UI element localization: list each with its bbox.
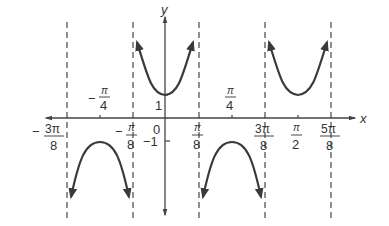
tick-pi-4: π 4 [225, 85, 236, 113]
svg-text:8: 8 [260, 138, 267, 153]
tick-pi-8: π 8 [192, 122, 203, 152]
svg-text:−: − [88, 91, 96, 106]
svg-text:8: 8 [193, 137, 200, 152]
svg-text:8: 8 [50, 138, 57, 153]
branch-down-center-pi-4 [203, 142, 261, 197]
svg-text:−: − [32, 124, 40, 139]
tick-5pi-8: 5π 8 [320, 122, 340, 153]
svg-text:2: 2 [292, 137, 299, 152]
tick-pi-2: π 2 [291, 122, 302, 152]
y-tick-label-1: 1 [155, 98, 162, 113]
svg-text:π: π [227, 85, 234, 96]
tick-neg-3pi-8: − 3π 8 [32, 122, 64, 153]
tick-neg-pi-4: − π 4 [88, 85, 110, 113]
svg-text:8: 8 [127, 137, 134, 152]
svg-text:π: π [293, 122, 300, 133]
x-axis-label: x [359, 111, 367, 126]
y-axis-label: y [160, 2, 169, 17]
y-tick-label-neg1: −1 [143, 134, 158, 149]
svg-text:−: − [115, 124, 123, 139]
axes [46, 17, 355, 215]
asymptotes [67, 22, 331, 218]
tick-3pi-8: 3π 8 [254, 122, 274, 153]
branch-up-center-pi-2 [269, 42, 327, 95]
svg-text:π: π [128, 122, 135, 133]
branch-down-center-neg-pi-4 [71, 142, 129, 197]
svg-text:5π: 5π [321, 122, 336, 136]
svg-text:3π: 3π [45, 122, 60, 136]
svg-text:3π: 3π [255, 122, 270, 136]
secant-graph: y x 1 0 −1 − π 4 π 4 − 3π 8 − π 8 π 8 3π… [0, 0, 389, 226]
svg-text:4: 4 [100, 98, 107, 113]
svg-text:π: π [194, 122, 201, 133]
svg-text:π: π [101, 85, 108, 96]
svg-text:4: 4 [226, 98, 233, 113]
svg-text:8: 8 [326, 138, 333, 153]
tick-neg-pi-8: − π 8 [115, 122, 137, 152]
